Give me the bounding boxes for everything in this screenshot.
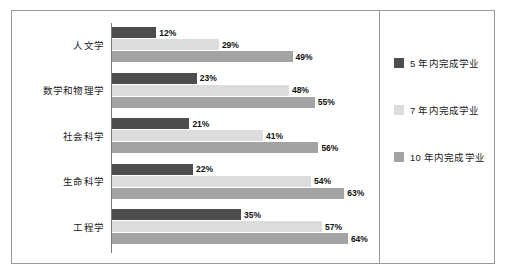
bar-value-label: 48% bbox=[289, 85, 309, 95]
bar bbox=[112, 97, 315, 108]
bar-value-label: 35% bbox=[241, 210, 261, 220]
bar-row: 35% bbox=[112, 209, 379, 220]
bar-stack: 35%57%64% bbox=[112, 209, 379, 246]
bar bbox=[112, 233, 348, 244]
bar-value-label: 41% bbox=[263, 131, 283, 141]
bar-row: 48% bbox=[112, 85, 379, 96]
bar bbox=[112, 221, 322, 232]
bar-row: 55% bbox=[112, 97, 379, 108]
bar bbox=[112, 164, 193, 175]
bar bbox=[112, 176, 311, 187]
bar-stack: 21%41%56% bbox=[112, 118, 379, 155]
bar-value-label: 12% bbox=[156, 28, 176, 38]
bar-value-label: 56% bbox=[318, 143, 338, 153]
bar-row: 21% bbox=[112, 118, 379, 129]
bar-group: 人文学12%29%49% bbox=[12, 25, 379, 66]
bar-value-label: 22% bbox=[193, 164, 213, 174]
bar-row: 49% bbox=[112, 51, 379, 62]
bar-row: 56% bbox=[112, 142, 379, 153]
bar-value-label: 54% bbox=[311, 176, 331, 186]
bar-value-label: 55% bbox=[315, 97, 335, 107]
bar bbox=[112, 188, 344, 199]
bar-row: 63% bbox=[112, 188, 379, 199]
bar bbox=[112, 85, 289, 96]
bar-stack: 23%48%55% bbox=[112, 73, 379, 110]
category-label: 生命科学 bbox=[12, 177, 104, 187]
legend-item[interactable]: 5 年内完成学业 bbox=[394, 56, 480, 70]
plot-area: 人文学12%29%49%数学和物理学23%48%55%社会科学21%41%56%… bbox=[12, 11, 379, 263]
bar bbox=[112, 142, 318, 153]
bar-value-label: 29% bbox=[219, 40, 239, 50]
legend-label: 7 年内完成学业 bbox=[410, 103, 480, 117]
bar bbox=[112, 118, 189, 129]
bar-row: 23% bbox=[112, 73, 379, 84]
bar bbox=[112, 51, 293, 62]
bar bbox=[112, 130, 263, 141]
bar-value-label: 57% bbox=[322, 222, 342, 232]
bar-value-label: 21% bbox=[189, 119, 209, 129]
legend-label: 5 年内完成学业 bbox=[410, 56, 480, 70]
bar bbox=[112, 27, 156, 38]
bar-row: 41% bbox=[112, 130, 379, 141]
bar-value-label: 63% bbox=[344, 188, 364, 198]
chart-legend: 5 年内完成学业7 年内完成学业10 年内完成学业 bbox=[380, 11, 494, 263]
bar-group: 工程学35%57%64% bbox=[12, 207, 379, 248]
bar-group: 社会科学21%41%56% bbox=[12, 116, 379, 157]
bar-row: 54% bbox=[112, 176, 379, 187]
bar-group: 数学和物理学23%48%55% bbox=[12, 71, 379, 112]
bar-row: 29% bbox=[112, 39, 379, 50]
bar-row: 57% bbox=[112, 221, 379, 232]
bar-row: 12% bbox=[112, 27, 379, 38]
bar-value-label: 64% bbox=[348, 234, 368, 244]
category-label: 数学和物理学 bbox=[12, 86, 104, 96]
bar-row: 64% bbox=[112, 233, 379, 244]
bar-group: 生命科学22%54%63% bbox=[12, 162, 379, 203]
legend-swatch-icon bbox=[394, 58, 404, 68]
bar-stack: 22%54%63% bbox=[112, 164, 379, 201]
legend-item[interactable]: 10 年内完成学业 bbox=[394, 150, 485, 164]
bar bbox=[112, 73, 197, 84]
legend-swatch-icon bbox=[394, 105, 404, 115]
bar bbox=[112, 209, 241, 220]
category-label: 工程学 bbox=[12, 222, 104, 232]
bar-value-label: 23% bbox=[197, 73, 217, 83]
bar-stack: 12%29%49% bbox=[112, 27, 379, 64]
bar-row: 22% bbox=[112, 164, 379, 175]
bar bbox=[112, 39, 219, 50]
chart-frame: 人文学12%29%49%数学和物理学23%48%55%社会科学21%41%56%… bbox=[11, 10, 495, 264]
legend-item[interactable]: 7 年内完成学业 bbox=[394, 103, 480, 117]
category-label: 人文学 bbox=[12, 40, 104, 50]
legend-swatch-icon bbox=[394, 152, 404, 162]
category-label: 社会科学 bbox=[12, 131, 104, 141]
bar-value-label: 49% bbox=[293, 52, 313, 62]
legend-label: 10 年内完成学业 bbox=[410, 150, 485, 164]
